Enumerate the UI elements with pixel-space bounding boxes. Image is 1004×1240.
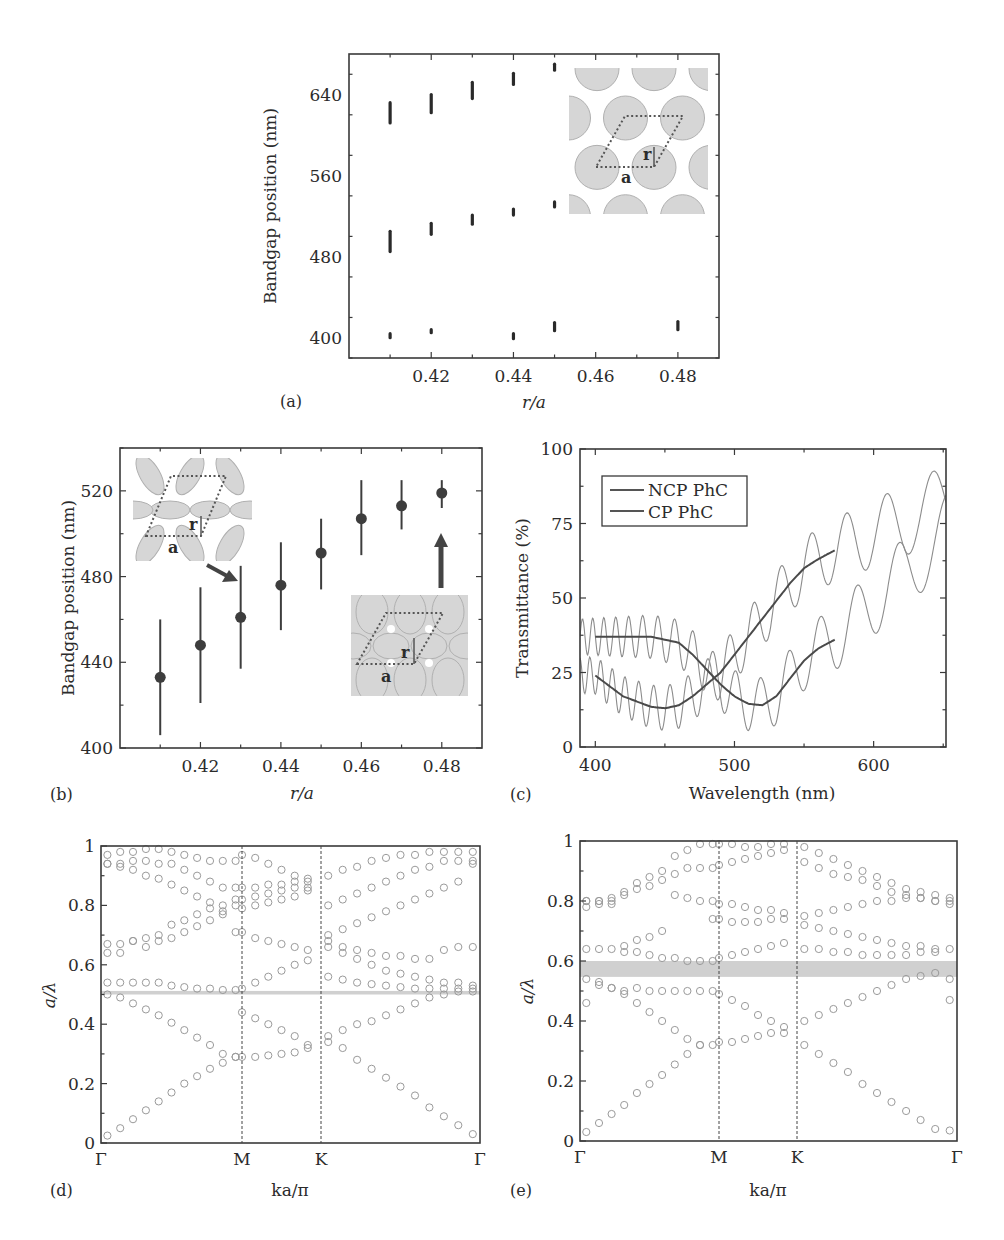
band-data-point (741, 1002, 748, 1009)
band-data-point (155, 1098, 162, 1105)
overlap-sphere (113, 501, 153, 519)
sphere (547, 96, 591, 140)
band-data-point (671, 987, 678, 994)
sphere (518, 145, 562, 189)
band-data-point (117, 848, 124, 855)
y-tick-label: 440 (81, 652, 113, 672)
band-data-point (368, 949, 375, 956)
y-tick-label: 0.4 (547, 1011, 574, 1031)
band-data-point (104, 940, 111, 947)
band-data-point (633, 984, 640, 991)
band-data-point (830, 927, 837, 934)
sphere (803, 145, 847, 189)
band-data-point (426, 890, 433, 897)
panel-e-marks (580, 840, 957, 1135)
band-data-point (873, 936, 880, 943)
y-tick-label: 1 (84, 836, 95, 856)
photonic-bandgap-band (580, 961, 957, 977)
band-data-point (767, 942, 774, 949)
band-data-point (142, 935, 149, 942)
inset-a-label: a (621, 168, 631, 187)
band-data-point (946, 996, 953, 1003)
band-data-point (382, 952, 389, 959)
band-data-point (219, 1050, 226, 1057)
band-data-point (117, 949, 124, 956)
band-data-point (888, 897, 895, 904)
band-data-point (859, 951, 866, 958)
band-data-point (155, 1012, 162, 1019)
sphere (832, 96, 876, 140)
band-data-point (440, 884, 447, 891)
band-data-point (142, 872, 149, 879)
band-data-point (397, 851, 404, 858)
band-data-point (469, 943, 476, 950)
y-tick-label: 560 (310, 166, 342, 186)
y-tick-label: 0.2 (547, 1071, 574, 1091)
panel-d-ylabel: a/λ (39, 982, 59, 1009)
x-tick-label: 500 (718, 755, 750, 775)
band-data-point (801, 912, 808, 919)
arrow-head-up (434, 533, 448, 547)
band-data-point (397, 1006, 404, 1013)
band-data-point (278, 866, 285, 873)
band-data-point (397, 970, 404, 977)
inset-a-label: a (168, 538, 178, 557)
band-data-point (767, 849, 774, 856)
sphere (775, 195, 819, 239)
band-data-point (206, 1065, 213, 1072)
band-data-point (696, 864, 703, 871)
overlap-sphere (432, 658, 464, 702)
band-data-point (411, 866, 418, 873)
band-data-point (368, 961, 375, 968)
data-point (356, 513, 367, 524)
band-data-point (339, 896, 346, 903)
band-data-point (859, 1080, 866, 1087)
arrow-diagonal (207, 565, 229, 577)
sphere (775, 96, 819, 140)
band-data-point (754, 1011, 761, 1018)
band-data-point (659, 876, 666, 883)
band-data-point (633, 999, 640, 1006)
y-tick-label: 520 (81, 481, 113, 501)
band-data-point (608, 1110, 615, 1117)
band-data-point (469, 1131, 476, 1138)
band-data-point (426, 1104, 433, 1111)
band-data-point (411, 1092, 418, 1099)
band-data-point (339, 976, 346, 983)
y-tick-label: 0 (84, 1133, 95, 1153)
y-tick-label: 400 (310, 328, 342, 348)
panel-a-ylabel: Bandgap position (nm) (260, 108, 280, 304)
x-tick-label: 0.42 (182, 756, 220, 776)
band-data-point (659, 927, 666, 934)
void (425, 625, 433, 633)
band-data-point (397, 872, 404, 879)
band-data-point (181, 929, 188, 936)
band-data-point (455, 943, 462, 950)
band-data-point (339, 1044, 346, 1051)
band-data-point (455, 857, 462, 864)
band-data-point (278, 940, 285, 947)
band-data-point (844, 930, 851, 937)
band-data-point (767, 906, 774, 913)
band-data-point (291, 1049, 298, 1056)
band-data-point (633, 1089, 640, 1096)
band-data-point (265, 973, 272, 980)
band-data-point (671, 954, 678, 961)
x-tick-label: 600 (857, 755, 889, 775)
band-data-point (194, 923, 201, 930)
x-tick-label: 0.46 (577, 366, 615, 386)
band-data-point (741, 855, 748, 862)
panel-c: 0255075100400500600 NCP PhC CP PhC Trans… (510, 439, 946, 804)
band-data-point (659, 1017, 666, 1024)
band-data-point (815, 1050, 822, 1057)
band-data-point (368, 981, 375, 988)
x-tick-label: 0.42 (412, 366, 450, 386)
overlap-sphere (411, 633, 447, 659)
band-data-point (411, 851, 418, 858)
band-data-point (265, 881, 272, 888)
band-data-point (696, 987, 703, 994)
data-point (195, 640, 206, 651)
sphere (604, 195, 648, 239)
band-data-point (684, 864, 691, 871)
band-data-point (382, 878, 389, 885)
